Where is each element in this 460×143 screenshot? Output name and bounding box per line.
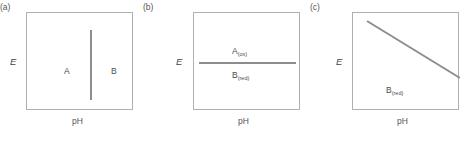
panel-b-species-sub-ox: (ox) <box>238 51 247 57</box>
panel-b-tag: (b) <box>143 2 153 12</box>
panel-c: (c) E B(red) pH <box>310 0 427 143</box>
panel-a-region-label-right: B <box>111 66 117 76</box>
panel-b-x-axis-label: pH <box>238 116 249 126</box>
panel-b-boundary-line <box>199 62 296 64</box>
panel-c-species-base-red: B <box>386 85 392 95</box>
panel-c-x-axis-label: pH <box>397 116 408 126</box>
panel-c-species-sub-red: (red) <box>392 90 404 96</box>
panel-c-boundary-line <box>353 13 460 111</box>
panel-b-species-label-oxidized: A(ox) <box>232 46 247 57</box>
panel-a-tag: (a) <box>0 2 10 12</box>
panel-b-species-base-ox: A <box>232 46 238 56</box>
panel-a-boundary-line <box>90 30 92 100</box>
panel-c-plot-area: B(red) <box>352 12 459 110</box>
panel-a-plot-area: A B <box>26 12 133 110</box>
panel-b-species-sub-red: (red) <box>238 75 250 81</box>
panel-b-species-label-reduced: B(red) <box>232 70 249 81</box>
panel-a: (a) E A B pH <box>0 0 143 143</box>
panel-c-tag: (c) <box>310 2 320 12</box>
panel-b-species-base-red: B <box>232 70 238 80</box>
panel-a-y-axis-label: E <box>10 57 16 67</box>
panel-a-region-label-left: A <box>64 66 70 76</box>
panel-b-y-axis-label: E <box>176 57 182 67</box>
panel-c-y-axis-label: E <box>336 57 342 67</box>
panel-a-x-axis-label: pH <box>72 116 83 126</box>
panel-c-species-label-reduced: B(red) <box>386 85 403 96</box>
panel-b-plot-area: A(ox) B(red) <box>193 12 300 110</box>
panel-b: (b) E A(ox) B(red) pH <box>143 0 310 143</box>
